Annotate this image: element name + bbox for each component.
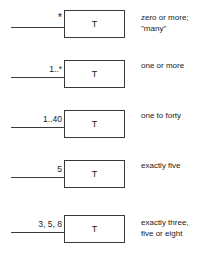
multiplicity-label: 1..40 [0, 114, 62, 125]
description-line: five or eight [141, 228, 213, 239]
multiplicity-row: 1..40 T one to forty [0, 100, 213, 150]
classifier-label: T [92, 20, 98, 29]
multiplicity-description: zero or more; "many" [141, 12, 213, 34]
description-line: exactly five [141, 160, 213, 171]
classifier-box: T [64, 215, 125, 243]
description-line: one or more [141, 60, 213, 71]
association-line [11, 177, 64, 178]
association-line [11, 77, 64, 78]
multiplicity-label: 1..* [0, 64, 62, 75]
multiplicity-description: exactly five [141, 160, 213, 171]
multiplicity-label: 3, 5, 8 [0, 219, 62, 230]
association-line [11, 27, 64, 28]
classifier-label: T [92, 225, 98, 234]
classifier-label: T [92, 70, 98, 79]
multiplicity-row: 1..* T one or more [0, 50, 213, 100]
multiplicity-label: * [0, 12, 62, 23]
association-line [11, 232, 64, 233]
description-line: exactly three, [141, 217, 213, 228]
multiplicity-description: exactly three, five or eight [141, 217, 213, 239]
description-line: "many" [141, 23, 213, 34]
classifier-box: T [64, 160, 125, 188]
multiplicity-row: 3, 5, 8 T exactly three, five or eight [0, 205, 213, 255]
multiplicity-description: one or more [141, 60, 213, 71]
classifier-box: T [64, 60, 125, 88]
multiplicity-row: 5 T exactly five [0, 150, 213, 200]
classifier-label: T [92, 170, 98, 179]
description-line: zero or more; [141, 12, 213, 23]
description-line: one to forty [141, 110, 213, 121]
multiplicity-description: one to forty [141, 110, 213, 121]
multiplicity-row: * T zero or more; "many" [0, 0, 213, 50]
classifier-box: T [64, 10, 125, 38]
classifier-box: T [64, 110, 125, 138]
classifier-label: T [92, 120, 98, 129]
multiplicity-label: 5 [0, 164, 62, 175]
multiplicity-diagram: * T zero or more; "many" 1..* T one or m… [0, 0, 213, 255]
association-line [11, 127, 64, 128]
